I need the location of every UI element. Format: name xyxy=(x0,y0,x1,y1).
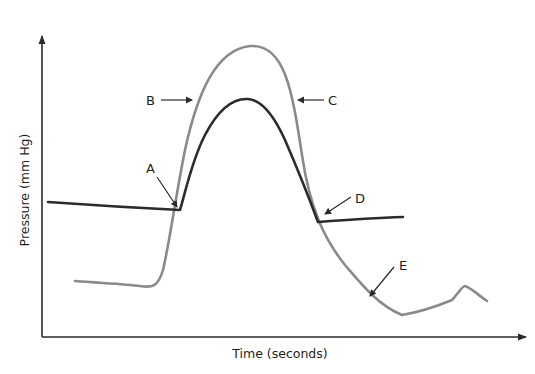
label-a: A xyxy=(146,161,155,176)
aortic-pressure-curve xyxy=(48,99,403,222)
label-d: D xyxy=(355,191,365,206)
pointer-a xyxy=(157,177,177,207)
pointer-d xyxy=(325,197,351,214)
x-axis-label: Time (seconds) xyxy=(231,346,327,361)
pointer-e xyxy=(370,267,394,296)
pressure-diagram: A B C D E Time (seconds) Pressure (mm Hg… xyxy=(0,0,535,374)
y-axis-label: Pressure (mm Hg) xyxy=(17,134,32,247)
label-b: B xyxy=(146,93,155,108)
ventricular-pressure-curve xyxy=(75,46,487,315)
label-e: E xyxy=(399,258,407,273)
label-c: C xyxy=(328,93,337,108)
